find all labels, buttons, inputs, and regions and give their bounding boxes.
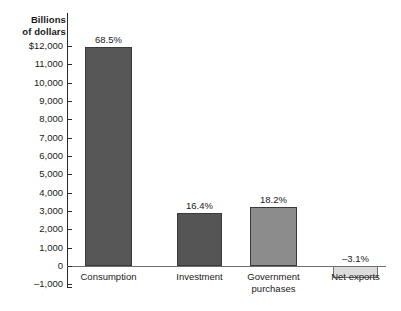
y-tick-mark [68, 101, 72, 102]
y-tick-label: 10,000 [3, 78, 63, 88]
bar-chart: Billions of dollars $12,00011,00010,0009… [0, 0, 401, 311]
y-tick-mark [68, 83, 72, 84]
x-category-label: Consumption [62, 271, 155, 283]
bar-2[interactable] [177, 213, 222, 266]
y-axis-title: Billions of dollars [14, 14, 66, 37]
y-tick-mark [68, 156, 72, 157]
y-tick-label: 9,000 [3, 96, 63, 106]
y-tick-label: 0 [3, 261, 63, 271]
y-tick-label: 3,000 [3, 206, 63, 216]
y-tick-mark [68, 248, 72, 249]
y-tick-mark [68, 229, 72, 230]
y-tick-mark [68, 46, 72, 47]
y-tick-label: –1,000 [3, 279, 63, 289]
y-tick-label: 1,000 [3, 243, 63, 253]
x-category-label: Government purchases [228, 271, 319, 294]
y-tick-mark [68, 64, 72, 65]
y-tick-label: $12,000 [3, 41, 63, 51]
bar-value-label: 16.4% [162, 200, 237, 211]
y-tick-label: 7,000 [3, 133, 63, 143]
x-category-label: Net exports [311, 271, 400, 283]
y-tick-mark [68, 284, 72, 285]
bar-value-label: 18.2% [235, 194, 312, 205]
bar-value-label: 68.5% [70, 34, 147, 45]
y-tick-mark [68, 193, 72, 194]
y-tick-mark [68, 138, 72, 139]
y-tick-label: 11,000 [3, 59, 63, 69]
y-tick-label: 8,000 [3, 114, 63, 124]
y-tick-label: 6,000 [3, 151, 63, 161]
y-tick-label: 5,000 [3, 169, 63, 179]
y-tick-mark [68, 266, 72, 267]
y-tick-mark [68, 174, 72, 175]
bar-1[interactable] [85, 47, 132, 266]
y-tick-mark [68, 119, 72, 120]
y-axis-line [67, 13, 68, 288]
bar-3[interactable] [250, 207, 297, 266]
y-tick-mark [68, 211, 72, 212]
bar-value-label: –3.1% [318, 253, 393, 264]
y-tick-label: 4,000 [3, 188, 63, 198]
y-axis-corner [67, 287, 72, 288]
y-tick-label: 2,000 [3, 224, 63, 234]
